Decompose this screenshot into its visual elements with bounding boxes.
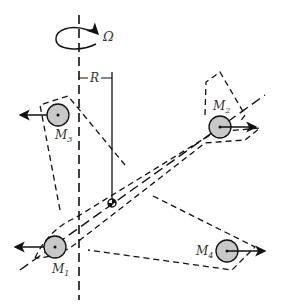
mass-m4: M4 [195,240,265,262]
mass-m1: M1 [15,236,69,278]
svg-text:R: R [89,71,99,85]
rotation-arrow-icon [56,28,98,49]
fuselage-outline [35,128,260,258]
airplane-rotation-diagram: Ω R R M1 M2 M3 M4 [0,0,288,306]
svg-text:M3: M3 [54,128,72,144]
svg-text:M2: M2 [212,99,230,115]
svg-text:M1: M1 [51,262,69,278]
omega-label: Ω [102,29,114,44]
svg-text:M4: M4 [195,244,213,260]
